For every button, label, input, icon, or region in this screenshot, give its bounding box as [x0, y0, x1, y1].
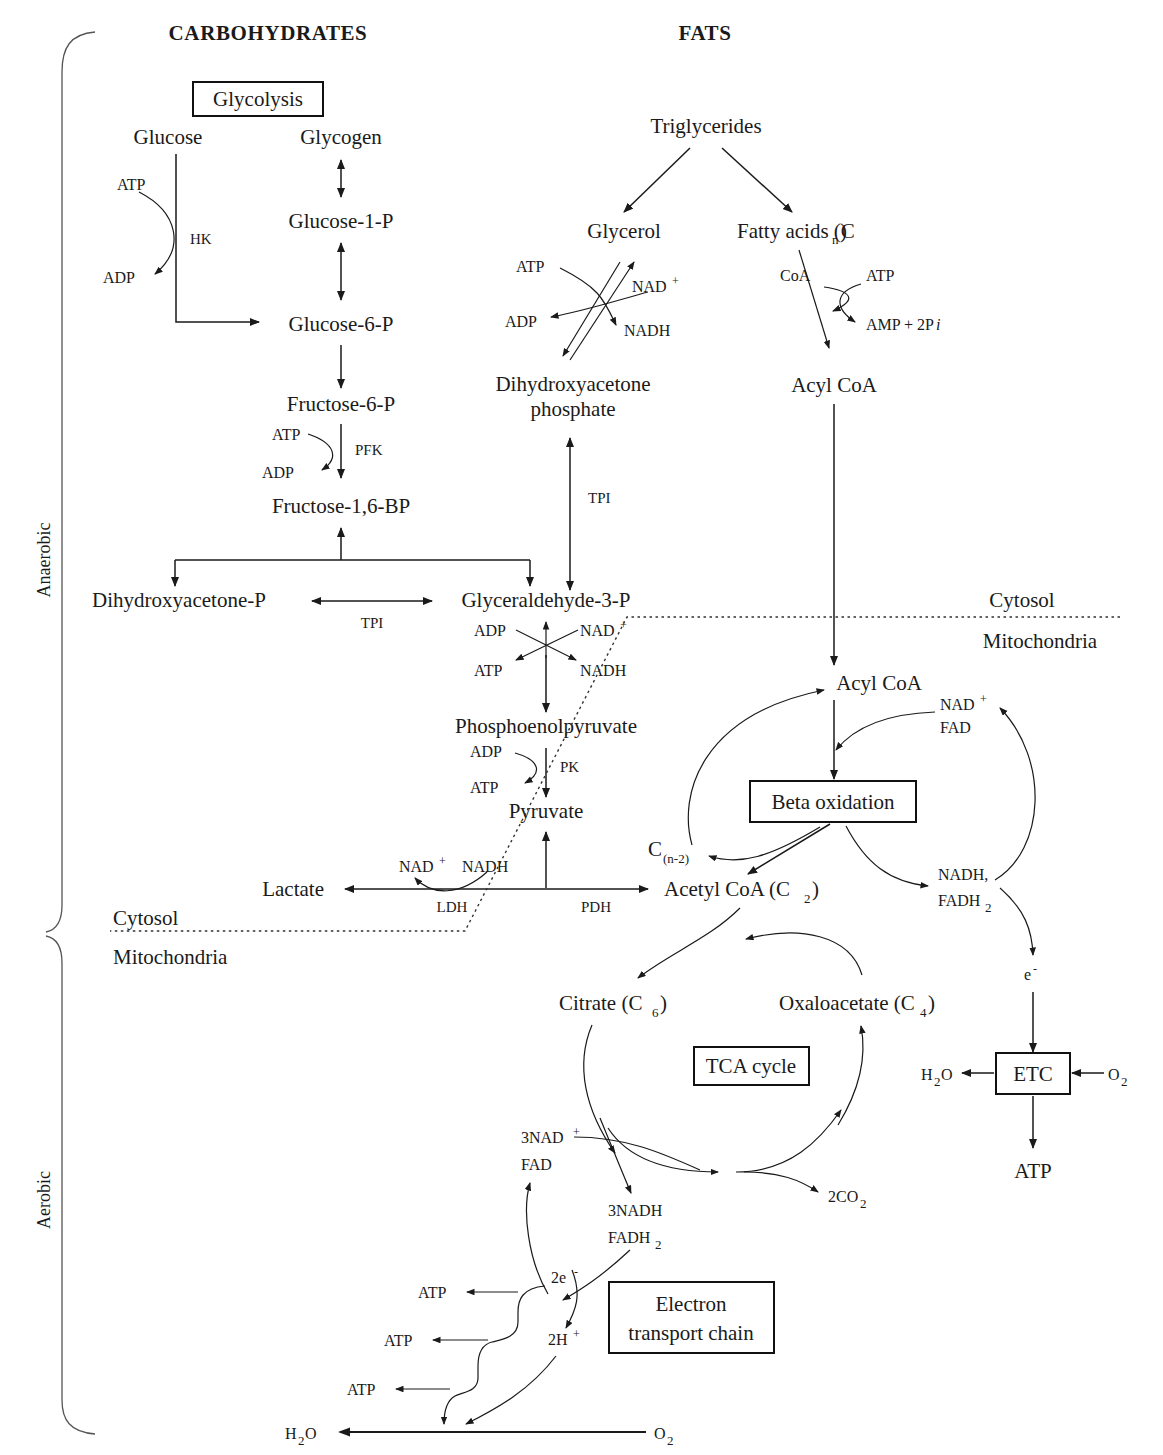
o2-etc-label: O 2	[1108, 1066, 1128, 1089]
2e-to-2h-curve	[566, 1270, 577, 1328]
phosphoenolpyruvate-label: Phosphoenolpyruvate	[455, 714, 637, 738]
atp-ga3p-label: ATP	[474, 662, 503, 679]
svg-text:Acetyl CoA (C: Acetyl CoA (C	[664, 877, 790, 901]
atp-etc-label: ATP	[1014, 1159, 1051, 1183]
hk-enzyme-label: HK	[190, 231, 212, 247]
fructose-1-6-bp-label: Fructose-1,6-BP	[272, 494, 410, 518]
atp-glycerol-label: ATP	[516, 258, 545, 275]
dhap-line1-label: Dihydroxyacetone	[495, 372, 650, 396]
atp-fa-label: ATP	[866, 267, 895, 284]
betaox-to-nadhfadh2-curve	[846, 826, 928, 886]
adp-glycerol-label: ADP	[505, 313, 537, 330]
svg-text:NAD: NAD	[580, 622, 615, 639]
nad-glycerol-group: NAD +	[632, 274, 679, 295]
svg-text:2: 2	[298, 1433, 305, 1448]
h2o-etc-label: H 2 O	[921, 1066, 953, 1089]
adp-ga3p-label: ADP	[474, 622, 506, 639]
fad-betaox-label: FAD	[940, 719, 971, 736]
h2o-bottom-label: H 2 O	[285, 1425, 317, 1448]
triglycerides-label: Triglycerides	[650, 114, 761, 138]
fadh2-tca-label: FADH 2	[608, 1229, 662, 1252]
dihydroxyacetone-p-label: Dihydroxyacetone-P	[92, 588, 266, 612]
svg-text:H: H	[285, 1425, 297, 1442]
svg-text:O: O	[1108, 1066, 1120, 1083]
svg-text:e: e	[1024, 966, 1031, 983]
pathway-canvas: Anaerobic Aerobic CARBOHYDRATES FATS Gly…	[0, 0, 1163, 1455]
three-nadh-label: 3NADH	[608, 1202, 663, 1219]
anaerobic-bracket: Anaerobic	[34, 32, 95, 932]
fattyacids-to-acylcoa-arrow	[799, 250, 829, 348]
atp-chain-1: ATP	[418, 1284, 447, 1301]
pdh-enzyme-label: PDH	[581, 899, 611, 915]
aerobic-label: Aerobic	[34, 1171, 54, 1229]
citrate-label: Citrate (C 6 )	[559, 991, 667, 1020]
pyruvate-label: Pyruvate	[509, 799, 584, 823]
three-nad-label: 3NAD +	[521, 1125, 580, 1146]
fats-header: FATS	[679, 21, 732, 45]
svg-text:C: C	[648, 837, 662, 861]
svg-text:2: 2	[1121, 1074, 1128, 1089]
glucose-label: Glucose	[134, 125, 203, 149]
svg-text:2: 2	[985, 900, 992, 915]
two-h-label: 2H +	[548, 1327, 580, 1348]
adp-pk-label: ADP	[470, 743, 502, 760]
adp-pfk-label: ADP	[262, 464, 294, 481]
c-n-minus-2-label: C (n-2)	[648, 837, 689, 866]
oxaloacetate-label: Oxaloacetate (C 4 )	[779, 991, 935, 1020]
svg-text:2: 2	[934, 1074, 941, 1089]
svg-text:FADH: FADH	[938, 892, 981, 909]
atp-chain-2: ATP	[384, 1332, 413, 1349]
two-co2-label: 2CO 2	[828, 1188, 867, 1211]
svg-text:2: 2	[804, 891, 811, 906]
svg-text:+: +	[573, 1125, 580, 1139]
svg-text:n: n	[832, 232, 839, 247]
hk-atp-adp-curve	[139, 192, 174, 274]
fa-coa-to-acylcoa-curve	[824, 287, 849, 311]
tpi-glycerol-label: TPI	[588, 490, 611, 506]
nadhfadh2-recycle-curve	[995, 708, 1035, 880]
svg-text:O: O	[654, 1425, 666, 1442]
aerobic-bracket: Aerobic	[34, 936, 95, 1434]
acyl-coa-cytosol-label: Acyl CoA	[791, 373, 878, 397]
nad-betaox-group: NAD +	[940, 692, 987, 713]
ldh-enzyme-label: LDH	[437, 899, 468, 915]
acetylcoa-to-citrate-curve	[638, 908, 740, 978]
svg-text:+: +	[672, 274, 679, 288]
nadh-glycerol-label: NADH	[624, 322, 671, 339]
fructose-6-p-label: Fructose-6-P	[287, 392, 396, 416]
svg-text:i: i	[936, 316, 940, 333]
svg-text:2: 2	[655, 1237, 662, 1252]
pk-adp-atp-curve	[515, 753, 536, 783]
nad-ga3p-group: NAD +	[580, 618, 627, 639]
carbohydrates-header: CARBOHYDRATES	[169, 21, 368, 45]
atp-pk-label: ATP	[470, 779, 499, 796]
glycerol-atp-to-nadh-curve	[560, 268, 616, 325]
anaerobic-label: Anaerobic	[34, 523, 54, 598]
acetyl-coa-label: Acetyl CoA (C 2 )	[664, 877, 819, 906]
svg-text:FADH: FADH	[608, 1229, 651, 1246]
svg-text:O: O	[941, 1066, 953, 1083]
dhap-line2-label: phosphate	[530, 397, 615, 421]
e-minus-label: e -	[1024, 962, 1037, 983]
oxaloacetate-to-junction-curve	[746, 933, 862, 975]
svg-text:): )	[660, 991, 667, 1015]
svg-text:Oxaloacetate (C: Oxaloacetate (C	[779, 991, 915, 1015]
glucose-to-g6p-path	[176, 154, 259, 322]
etc-staircase	[444, 1286, 545, 1424]
tg-to-fattyacids-arrow	[722, 148, 792, 212]
tca-to-3nadh-curve	[600, 1118, 631, 1193]
nadfad-into-betaox-curve	[836, 712, 935, 750]
svg-text:NAD: NAD	[940, 696, 975, 713]
metabolism-diagram: Anaerobic Aerobic CARBOHYDRATES FATS Gly…	[0, 0, 1163, 1455]
svg-text:+: +	[573, 1327, 580, 1341]
tpi-glycolysis-label: TPI	[361, 615, 384, 631]
amp-2pi-label: AMP + 2P i	[866, 316, 940, 333]
svg-text:2e: 2e	[551, 1269, 566, 1286]
fatty-acids-label: Fatty acids (C n )	[737, 219, 855, 247]
nadhfadh2-to-e-curve	[1000, 888, 1033, 955]
svg-text:6: 6	[652, 1005, 659, 1020]
fadh2-betaox-label: FADH 2	[938, 892, 992, 915]
2e-recycle-to-nad-curve	[527, 1183, 548, 1294]
tca-to-2co2-curve	[744, 1172, 818, 1192]
glucose-6-p-label: Glucose-6-P	[289, 312, 394, 336]
